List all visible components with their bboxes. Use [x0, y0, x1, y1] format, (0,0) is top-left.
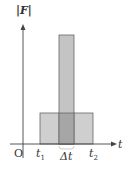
force-time-diagram: [0, 0, 130, 170]
tick-delta-t: Δt: [60, 151, 72, 162]
y-axis-label: |F|: [16, 5, 32, 16]
overlap-rect: [59, 113, 74, 144]
tick-t2: t2: [89, 148, 98, 162]
y-axis-arrow-icon: [21, 24, 26, 30]
delta-t-brace: [59, 146, 74, 149]
origin-label: O: [14, 148, 23, 159]
x-axis-label: t: [118, 139, 122, 150]
x-axis-arrow-icon: [111, 142, 117, 147]
tick-t1: t1: [36, 148, 45, 162]
